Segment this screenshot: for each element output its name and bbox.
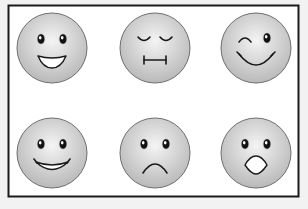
face-sad (120, 118, 190, 188)
eye-icon (263, 32, 271, 43)
face-sleepy (120, 13, 190, 83)
face-surprised (221, 118, 291, 188)
eye-glint (39, 36, 42, 40)
eye-glint (61, 141, 64, 145)
eye-icon (140, 138, 148, 149)
face-circle (221, 13, 291, 83)
eye-glint (265, 141, 268, 145)
eye-glint (265, 35, 268, 39)
eye-glint (61, 36, 64, 40)
eye-glint (39, 141, 42, 145)
eye-icon (263, 138, 271, 149)
emoji-grid (0, 0, 308, 209)
eye-icon (162, 138, 170, 149)
eye-glint (243, 141, 246, 145)
eye-icon (241, 138, 249, 149)
face-winking (221, 13, 291, 83)
face-circle (120, 118, 190, 188)
eye-icon (59, 33, 67, 44)
face-circle (17, 118, 87, 188)
eye-glint (142, 141, 145, 145)
face-circle (221, 118, 291, 188)
eye-icon (37, 138, 45, 149)
eye-icon (37, 33, 45, 44)
face-circle (120, 13, 190, 83)
face-grinning (17, 13, 87, 83)
eye-icon (59, 138, 67, 149)
eye-glint (164, 141, 167, 145)
face-smiling (17, 118, 87, 188)
face-circle (17, 13, 87, 83)
